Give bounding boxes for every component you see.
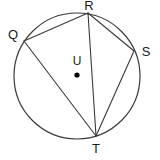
chord-RS	[88, 13, 134, 51]
chord-QT	[24, 41, 96, 136]
vertex-label-T: T	[92, 141, 100, 156]
vertex-label-R: R	[84, 0, 93, 13]
chord-ST	[96, 51, 134, 136]
geometry-canvas: U Q R S T	[0, 0, 160, 160]
geometry-figure: U Q R S T	[0, 0, 160, 160]
center-label-U: U	[73, 54, 82, 68]
center-point-dot	[74, 72, 79, 77]
chord-RT	[88, 13, 96, 136]
vertex-label-Q: Q	[8, 27, 18, 42]
vertex-label-S: S	[142, 44, 151, 59]
